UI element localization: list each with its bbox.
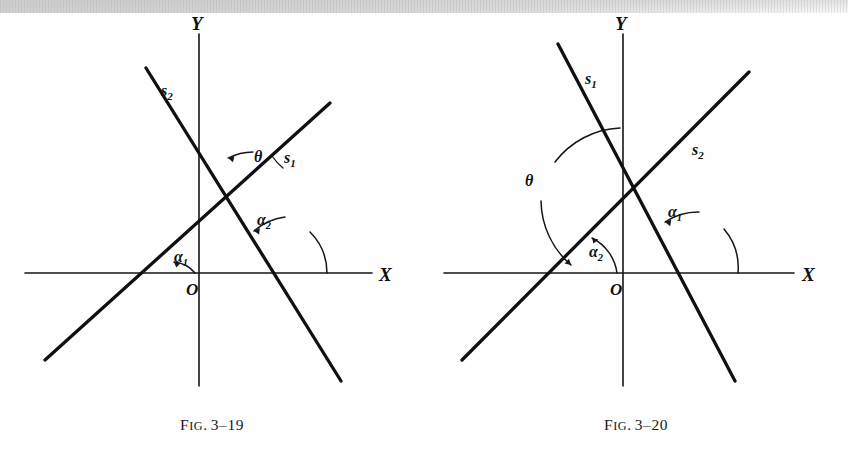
figure-3-19: X Y O s1 s2 α1 α2 θ FIG.3–19 [0, 0, 424, 462]
line-label-s2: s2 [691, 141, 704, 161]
figure-page: X Y O s1 s2 α1 α2 θ FIG.3–19 [0, 0, 848, 462]
figure-3-20-caption: FIG.3–20 [424, 416, 848, 434]
figure-3-19-drawing: X Y O s1 s2 α1 α2 θ [0, 0, 424, 410]
angle-label-theta: θ [525, 172, 534, 189]
angle-label-alpha2: α2 [589, 243, 604, 263]
caption-number: 3–20 [635, 416, 668, 433]
angle-label-theta: θ [254, 148, 263, 165]
origin-label: O [186, 280, 198, 299]
caption-number: 3–19 [211, 416, 244, 433]
y-axis-label: Y [615, 13, 629, 34]
caption-smallcaps: IG [613, 419, 627, 433]
line-s2 [146, 68, 341, 381]
figure-3-20-drawing: X Y O s1 s2 θ α2 α1 [424, 0, 848, 410]
x-axis-label: X [801, 264, 816, 285]
figure-3-19-caption: FIG.3–19 [0, 416, 424, 434]
angle-arc-alpha2-right [310, 232, 327, 273]
angle-label-alpha1: α1 [668, 203, 682, 223]
caption-dot: . [627, 416, 631, 433]
line-s1 [558, 44, 735, 381]
line-s1 [45, 103, 330, 360]
figure-3-20: X Y O s1 s2 θ α2 α1 FIG.3–20 [424, 0, 848, 462]
caption-dot: . [203, 416, 207, 433]
angle-leader-theta-right [272, 156, 283, 168]
line-label-s1: s1 [283, 149, 296, 169]
origin-label: O [610, 280, 622, 299]
angle-label-alpha2: α2 [257, 211, 272, 231]
caption-prefix: F [180, 416, 189, 433]
line-s2 [462, 72, 749, 360]
y-axis-label: Y [191, 13, 205, 34]
line-label-s1: s1 [584, 70, 597, 90]
x-axis-label: X [378, 264, 393, 285]
caption-smallcaps: IG [189, 419, 203, 433]
angle-arc-alpha1-right [724, 229, 738, 273]
line-label-s2: s2 [160, 82, 173, 102]
caption-prefix: F [604, 416, 613, 433]
